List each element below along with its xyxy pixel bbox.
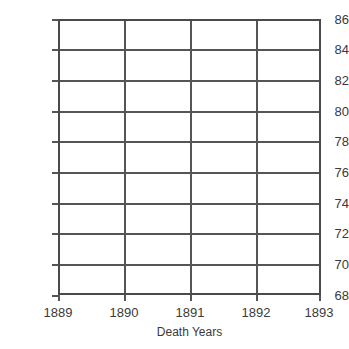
x-tick-mark [319,295,321,301]
x-tick-label: 1890 [94,306,154,319]
chart-figure: Death Ages 86 84 82 80 78 76 74 72 70 68 [0,0,349,349]
y-axis-spine [58,19,60,295]
x-tick-label: 1889 [28,306,88,319]
plot-top-spine [58,19,321,21]
x-axis-title: Death Years [58,325,321,339]
x-tick-label: 1891 [160,306,220,319]
y-axis-title: Death Ages [2,119,16,219]
gridline-vertical [256,19,258,295]
plot-area [58,19,321,295]
x-tick-mark [124,295,126,301]
x-tick-label: 1893 [289,306,349,319]
gridline-vertical [190,19,192,295]
gridline-vertical [124,19,126,295]
x-tick-mark [58,295,60,301]
plot-right-spine [319,19,321,295]
x-tick-mark [256,295,258,301]
x-tick-mark [190,295,192,301]
x-tick-label: 1892 [226,306,286,319]
